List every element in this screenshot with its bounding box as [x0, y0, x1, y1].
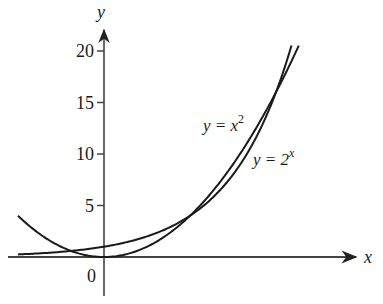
- label-two-to-x-sup: x: [288, 146, 295, 160]
- y-tick-label: 15: [76, 93, 94, 113]
- y-tick-label: 5: [85, 196, 94, 216]
- label-x-squared-sup: 2: [238, 112, 244, 126]
- function-graph: 5101520 y x 0 y = x2 y = 2x: [0, 0, 383, 304]
- label-two-to-x: y = 2x: [251, 146, 295, 169]
- y-tick-label: 20: [76, 41, 94, 61]
- x-axis-label: x: [363, 247, 372, 267]
- curve-two-to-x: [18, 45, 291, 254]
- label-x-squared-main: y = x: [201, 116, 239, 135]
- label-two-to-x-main: y = 2: [251, 150, 290, 169]
- y-tick-label: 10: [76, 144, 94, 164]
- origin-label: 0: [87, 266, 96, 286]
- y-ticks: 5101520: [76, 41, 104, 216]
- label-x-squared: y = x2: [201, 112, 244, 135]
- y-axis-label: y: [95, 2, 105, 22]
